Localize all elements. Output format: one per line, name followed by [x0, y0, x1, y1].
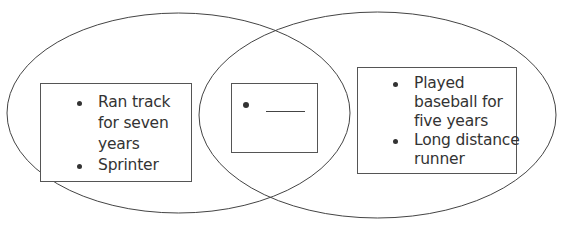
right-item-1-line-2: baseball for — [414, 92, 503, 112]
right-item-2-line-2: runner — [414, 149, 465, 169]
left-item-2-line-1: Sprinter — [98, 155, 159, 175]
right-item-1-line-1: Played — [414, 73, 465, 93]
right-item-2-line-1: Long distance — [414, 130, 520, 150]
intersection-box — [231, 83, 318, 153]
bullet-icon — [243, 102, 249, 108]
left-item-1-line-1: Ran track — [98, 92, 170, 112]
intersection-blank-line[interactable] — [266, 111, 305, 112]
bullet-icon — [77, 164, 82, 169]
left-set-box: Ran track for seven years Sprinter — [40, 83, 192, 182]
right-item-1-line-3: five years — [414, 111, 488, 131]
right-set-box: Played baseball for five years Long dist… — [357, 67, 517, 174]
bullet-icon — [393, 139, 398, 144]
left-item-1-line-3: years — [98, 134, 140, 154]
bullet-icon — [77, 101, 82, 106]
left-item-1-line-2: for seven — [98, 113, 169, 133]
bullet-icon — [393, 82, 398, 87]
